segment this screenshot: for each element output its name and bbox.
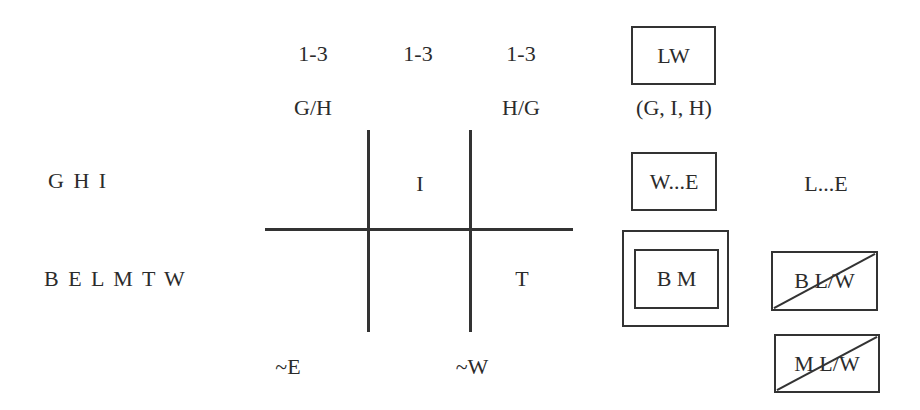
column-label-1: G/H — [294, 97, 332, 119]
grid-cell-t: T — [515, 268, 528, 290]
bottom-label-not-e: ~E — [275, 356, 300, 378]
mlw-crossed-box: M L/W — [774, 334, 880, 393]
we-box-label: W...E — [650, 169, 699, 195]
grid-vertical-line-left — [367, 130, 370, 332]
bottom-label-not-w: ~W — [456, 356, 489, 378]
lw-caption: (G, I, H) — [636, 97, 712, 119]
column-label-3: H/G — [502, 97, 540, 119]
column-count-3: 1-3 — [506, 43, 535, 65]
bm-inner-box: B M — [634, 249, 719, 309]
we-box: W...E — [631, 152, 717, 211]
grid-vertical-line-right — [469, 130, 472, 332]
grid-horizontal-line — [265, 228, 573, 231]
column-count-1: 1-3 — [298, 43, 327, 65]
le-text: L...E — [804, 173, 847, 195]
bm-outer-box: B M — [622, 230, 729, 327]
column-count-2: 1-3 — [403, 43, 432, 65]
lw-box-label: LW — [657, 43, 690, 69]
grid-cell-i: I — [416, 173, 423, 195]
strike-diagonal-icon — [776, 336, 878, 391]
row-label-ghi: G H I — [48, 170, 108, 192]
lw-box: LW — [631, 26, 716, 85]
blw-crossed-box: B L/W — [771, 251, 878, 311]
strike-diagonal-icon — [773, 253, 876, 309]
bm-box-label: B M — [657, 266, 697, 292]
row-label-belmtw: B E L M T W — [44, 268, 187, 290]
